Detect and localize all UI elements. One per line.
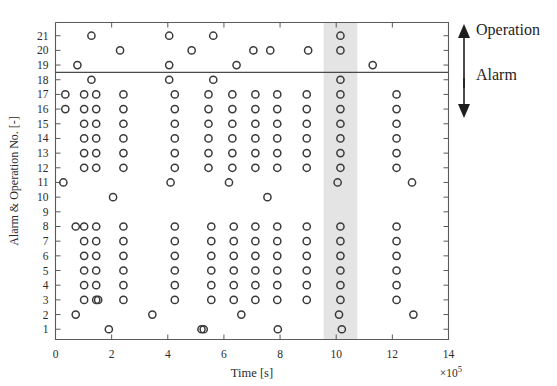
y-axis-tick-label: 13 (37, 147, 49, 159)
data-point (252, 296, 259, 303)
data-point (274, 238, 281, 245)
data-point (171, 223, 178, 230)
data-point (410, 311, 417, 318)
data-point (208, 282, 215, 289)
data-point (303, 120, 310, 127)
data-point (274, 135, 281, 142)
data-point (250, 47, 257, 54)
data-point (252, 164, 259, 171)
data-point (60, 179, 67, 186)
data-point (303, 164, 310, 171)
data-point (274, 164, 281, 171)
y-axis-tick-label: 12 (37, 162, 49, 174)
data-point (230, 282, 237, 289)
x-axis-tick-label: 10 (330, 348, 342, 360)
data-point (229, 105, 236, 112)
data-point (81, 238, 88, 245)
data-point (72, 311, 79, 318)
data-point (149, 311, 156, 318)
data-point (393, 223, 400, 230)
data-point (264, 194, 271, 201)
data-point (393, 296, 400, 303)
data-point (230, 296, 237, 303)
data-point (230, 252, 237, 259)
data-point (93, 164, 100, 171)
data-point (252, 150, 259, 157)
data-point (166, 61, 173, 68)
data-point (230, 267, 237, 274)
data-point (393, 282, 400, 289)
y-axis-tick-label: 8 (43, 220, 49, 232)
data-point (230, 223, 237, 230)
data-point (88, 32, 95, 39)
y-axis-tick-label: 20 (37, 44, 49, 56)
y-axis-tick-label: 10 (37, 191, 49, 203)
data-point (274, 91, 281, 98)
y-axis-tick-label: 6 (43, 250, 49, 262)
y-axis-tick-label: 5 (43, 265, 49, 277)
x-axis-tick-label: 12 (387, 348, 399, 360)
data-point (81, 282, 88, 289)
data-point (303, 252, 310, 259)
operation-label: Operation (476, 21, 540, 39)
y-axis-tick-label: 16 (37, 103, 49, 115)
data-point (252, 267, 259, 274)
scatter-plot: 1234567891011121314151617181920210246810… (0, 0, 557, 386)
data-point (120, 282, 127, 289)
data-point (274, 105, 281, 112)
data-point (274, 150, 281, 157)
data-point (116, 47, 123, 54)
data-point (252, 252, 259, 259)
x-axis-tick-label: 6 (221, 348, 227, 360)
data-point (81, 105, 88, 112)
data-point (120, 252, 127, 259)
data-point (171, 296, 178, 303)
data-point (93, 91, 100, 98)
data-point (393, 164, 400, 171)
data-point (120, 267, 127, 274)
data-point (393, 135, 400, 142)
data-point (205, 91, 212, 98)
y-axis-tick-label: 18 (37, 74, 49, 86)
data-point (93, 282, 100, 289)
data-point (171, 164, 178, 171)
data-point (93, 105, 100, 112)
data-point (81, 223, 88, 230)
data-point (81, 296, 88, 303)
data-point (393, 120, 400, 127)
data-point (208, 296, 215, 303)
data-point (105, 326, 112, 333)
x-axis-exponent: ×105 (440, 364, 462, 379)
data-point (93, 120, 100, 127)
data-point (166, 32, 173, 39)
y-axis-tick-label: 11 (37, 176, 48, 188)
data-point (225, 179, 232, 186)
data-point (81, 164, 88, 171)
y-axis-tick-label: 14 (37, 132, 49, 144)
data-point (171, 105, 178, 112)
data-point (93, 135, 100, 142)
y-axis-tick-label: 2 (43, 309, 49, 321)
data-point (230, 238, 237, 245)
data-point (93, 252, 100, 259)
data-point (274, 326, 281, 333)
data-point (274, 252, 281, 259)
chart-figure: 1234567891011121314151617181920210246810… (0, 0, 557, 386)
data-point (171, 135, 178, 142)
data-point (120, 238, 127, 245)
data-point (393, 105, 400, 112)
data-point (81, 267, 88, 274)
data-point (171, 282, 178, 289)
x-axis-tick-label: 2 (109, 348, 115, 360)
data-point (171, 252, 178, 259)
data-point (171, 267, 178, 274)
x-axis-tick-label: 0 (53, 348, 59, 360)
data-point (408, 179, 415, 186)
data-point (393, 150, 400, 157)
data-point (171, 120, 178, 127)
data-point (393, 91, 400, 98)
data-point (229, 135, 236, 142)
data-point (205, 150, 212, 157)
x-axis-tick-label: 4 (165, 348, 171, 360)
data-point (120, 164, 127, 171)
